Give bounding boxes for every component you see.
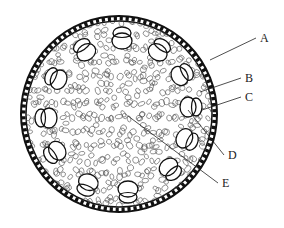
label-b: B <box>245 71 253 85</box>
label-c: C <box>245 90 253 104</box>
vascular-bundle <box>35 108 57 128</box>
leader-line-a <box>210 38 256 60</box>
label-a: A <box>260 31 269 45</box>
vascular-bundle <box>118 181 138 203</box>
label-e: E <box>222 176 229 190</box>
label-d: D <box>228 148 237 162</box>
stem-cross-section-diagram: ABCDE <box>0 0 284 228</box>
vascular-bundle <box>112 27 132 49</box>
